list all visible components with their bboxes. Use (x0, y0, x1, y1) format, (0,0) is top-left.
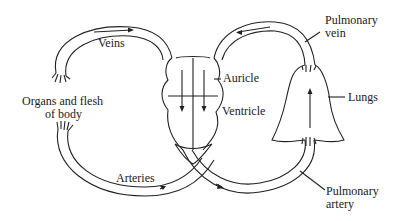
arrow-icon (128, 28, 134, 33)
organs-capillaries-top (52, 73, 70, 83)
arrow-icon (202, 106, 207, 112)
label-pulmonary-artery-line2: artery (326, 198, 354, 210)
lungs (272, 65, 344, 146)
label-organs-line1: Organs and flesh (22, 95, 103, 107)
label-veins: Veins (98, 37, 125, 49)
organs-capillaries-bottom (57, 121, 73, 131)
label-pulmonary-artery-line1: Pulmonary (326, 185, 379, 197)
pulmonary-artery-leader (300, 171, 325, 190)
label-organs-line2: of body (45, 108, 82, 120)
circulation-diagram: Veins Organs and flesh of body Auricle V… (0, 0, 400, 221)
veins-vessel (55, 27, 172, 76)
label-arteries: Arteries (116, 172, 155, 184)
label-lungs: Lungs (348, 91, 378, 103)
arrow-icon (308, 88, 313, 94)
label-auricle: Auricle (223, 72, 259, 84)
label-ventricle: Ventricle (222, 105, 265, 117)
pulmonary-vein-vessel (214, 22, 315, 65)
label-pulmonary-vein-line1: Pulmonary (325, 14, 378, 26)
pulmonary-artery-vessel (183, 140, 315, 193)
arrow-icon (236, 30, 242, 35)
heart (162, 57, 223, 165)
label-pulmonary-vein-line2: vein (325, 27, 346, 39)
arrow-icon (180, 106, 185, 112)
pulmonary-vein-leader (305, 32, 320, 42)
